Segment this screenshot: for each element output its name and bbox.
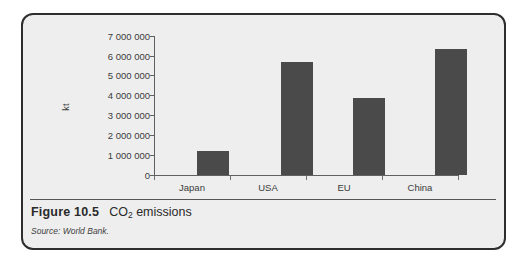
x-tick-mark-2 [306,176,307,180]
y-tick-label-3000000: 3 000 000 [78,111,150,121]
y-tick-label-0: 0 [78,171,150,181]
x-tick-mark-1 [230,176,231,180]
y-tick-label-2000000: 2 000 000 [78,131,150,141]
bar-japan[interactable] [197,151,229,175]
bar-china[interactable] [435,49,467,175]
figure-title-suffix: emissions [133,205,192,219]
x-tick-mark-0 [154,176,155,180]
x-tick-mark-3 [382,176,383,180]
bar-usa[interactable] [281,62,313,175]
y-tick-label-5000000: 5 000 000 [78,71,150,81]
figure-title: CO2 emissions [109,205,192,219]
figure-source: Source: World Bank. [31,226,491,236]
category-label-china: China [382,182,458,193]
figure-title-subscript: 2 [128,210,133,220]
bar-eu[interactable] [353,98,385,175]
y-tick-label-6000000: 6 000 000 [78,52,150,62]
figure-caption: Figure 10.5CO2 emissions [31,204,491,221]
y-tick-label-4000000: 4 000 000 [78,91,150,101]
chart-plot-region: kt 7 000 000 6 000 000 5 000 000 4 000 0… [23,15,504,197]
y-tick-label-7000000: 7 000 000 [78,32,150,42]
bars-layer [154,36,459,175]
category-label-usa: USA [230,182,306,193]
y-axis-tick-labels: 7 000 000 6 000 000 5 000 000 4 000 000 … [78,15,150,197]
figure-title-prefix: CO [109,205,128,219]
figure-panel: kt 7 000 000 6 000 000 5 000 000 4 000 0… [21,13,506,250]
x-tick-mark-4 [458,176,459,180]
category-label-japan: Japan [154,182,230,193]
category-label-eu: EU [306,182,382,193]
y-axis-title: kt [61,97,71,117]
caption-divider [30,199,496,200]
figure-number: Figure 10.5 [31,205,99,219]
y-tick-label-1000000: 1 000 000 [78,151,150,161]
caption-block: Figure 10.5CO2 emissions Source: World B… [31,204,491,236]
